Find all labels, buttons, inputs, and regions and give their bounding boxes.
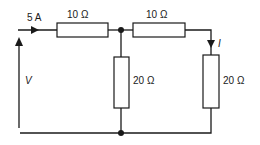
current-arrow-icon [31, 26, 39, 34]
resistor-r4 [203, 55, 219, 108]
resistor-r3-label: 20 Ω [133, 75, 155, 86]
source-current-label: 5 A [27, 12, 42, 23]
resistor-r2-label: 10 Ω [146, 9, 168, 20]
resistor-r3 [114, 57, 129, 108]
voltage-label: V [25, 75, 33, 86]
resistor-r1 [57, 23, 108, 37]
resistor-r4-label: 20 Ω [223, 75, 245, 86]
branch-current-arrow-icon [207, 40, 215, 48]
voltage-arrow-icon [15, 37, 23, 46]
circuit-diagram: 5 A 10 Ω 10 Ω I 20 Ω 20 Ω V [0, 0, 260, 145]
resistor-r2 [133, 23, 185, 37]
wire-top-right [185, 30, 211, 55]
resistor-r1-label: 10 Ω [67, 9, 89, 20]
wire-right-return [121, 108, 211, 133]
branch-current-label: I [218, 38, 221, 49]
